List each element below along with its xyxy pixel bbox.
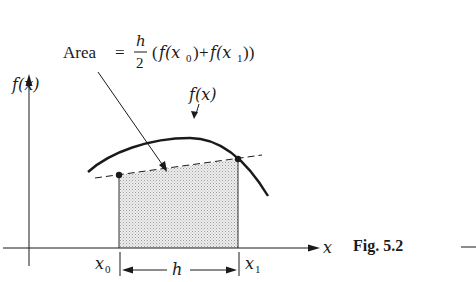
trapezoid-rule-diagram: Area = h 2 ( f(x 0 ) + f(x 1 )) f(x) f(x… [0,0,476,282]
area-word: Area [63,43,96,62]
curve-label-arrow-icon [191,111,198,119]
area-term1-close: ) [193,43,199,62]
x1-sub: 1 [255,263,261,275]
curve-label: f(x) [188,85,216,104]
point-x0 [116,172,122,178]
area-term2-close: )) [243,43,254,62]
point-x1 [235,156,241,162]
area-plus: + [199,43,209,62]
area-term2: f(x [209,43,231,62]
trapezoid-area [119,159,238,248]
h-left-arrowhead-icon [122,267,133,274]
area-open-paren: ( [152,43,158,62]
x-axis-label: x [323,238,332,257]
x-axis-arrow-icon [308,245,320,252]
x0-label: x [95,254,104,273]
area-equals: = [115,43,125,62]
area-term1: f(x [158,43,180,62]
figure-caption: Fig. 5.2 [353,237,403,255]
h-right-arrowhead-icon [226,267,237,274]
h-label: h [172,260,182,279]
x1-label: x [245,254,254,273]
y-axis-label: f(x) [11,75,39,94]
area-frac-den: 2 [136,55,144,71]
area-frac-num: h [136,32,146,50]
area-term2-sub: 1 [237,52,243,64]
x0-sub: 0 [105,263,111,275]
area-term1-sub: 0 [186,52,192,64]
area-pointer-line [98,72,164,167]
